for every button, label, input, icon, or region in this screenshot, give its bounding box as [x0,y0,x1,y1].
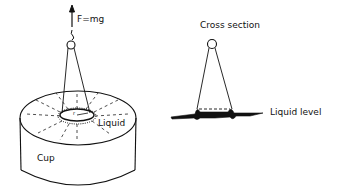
liquid-level-label: Liquid level [270,108,321,117]
cup-label: Cup [37,154,55,163]
hook-ring-icon [67,41,75,49]
cross-section-ring-icon [208,40,217,49]
force-label: F=mg [77,15,104,24]
cross-section-title: Cross section [200,21,260,30]
cross-section-wires [197,48,232,109]
liquid-level-surface [171,109,263,119]
diagram-canvas: F=mg r Liquid Cup Cross section Liquid l… [0,0,337,191]
force-arrow-icon [70,5,75,40]
radius-label: r [73,111,75,116]
suspension-wires [62,48,90,113]
cup-cylinder [20,91,136,185]
surface-tension-dashes [26,92,128,142]
liquid-ring-icon [58,108,96,124]
liquid-label: Liquid [98,119,125,128]
